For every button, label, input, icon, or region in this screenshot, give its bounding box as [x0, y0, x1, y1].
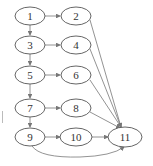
node-label: 9 — [27, 131, 33, 143]
node-label: 10 — [71, 131, 83, 143]
node-label: 11 — [120, 131, 131, 143]
node-9: 9 — [15, 128, 45, 146]
node-label: 1 — [27, 10, 33, 22]
edge-9-11 — [32, 146, 124, 157]
node-5: 5 — [15, 66, 45, 84]
node-label: 3 — [27, 39, 33, 51]
flow-graph: 1 2 3 4 5 6 7 8 9 10 11 — [0, 0, 153, 166]
node-label: 2 — [73, 10, 79, 22]
node-label: 4 — [73, 39, 79, 51]
node-10: 10 — [60, 128, 92, 146]
edge-8-11 — [90, 112, 120, 128]
node-11: 11 — [108, 127, 142, 147]
node-7: 7 — [15, 99, 45, 117]
node-label: 5 — [27, 69, 33, 81]
node-label: 6 — [73, 69, 79, 81]
node-label: 7 — [27, 102, 33, 114]
edge-2-11 — [90, 20, 121, 127]
node-3: 3 — [15, 36, 45, 54]
node-label: 8 — [73, 102, 79, 114]
node-4: 4 — [61, 36, 91, 54]
node-2: 2 — [61, 7, 91, 25]
node-6: 6 — [61, 66, 91, 84]
edge-4-11 — [90, 49, 121, 127]
node-1: 1 — [15, 7, 45, 25]
node-8: 8 — [61, 99, 91, 117]
